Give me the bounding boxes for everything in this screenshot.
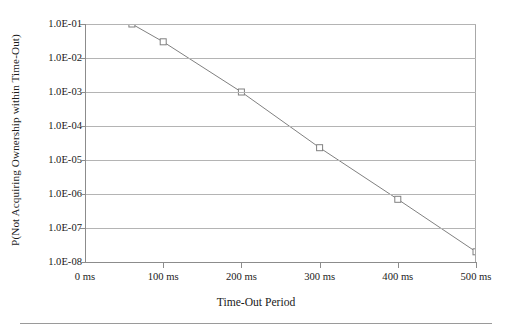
y-axis-tick-mark	[80, 194, 86, 195]
y-axis-tick-mark	[80, 262, 86, 263]
y-axis-tick-mark	[80, 58, 86, 59]
x-axis-title: Time-Out Period	[0, 296, 512, 309]
y-axis-tick-mark	[80, 24, 86, 25]
y-axis-tick-label: 1.0E-06	[26, 189, 82, 199]
x-axis-tick-mark	[241, 262, 242, 268]
x-axis-tick-label: 300 ms	[304, 271, 335, 282]
x-axis-tick-mark	[476, 262, 477, 268]
y-axis-tick-label: 1.0E-01	[26, 19, 82, 29]
x-axis-tick-label: 500 ms	[461, 271, 492, 282]
gridline	[85, 194, 476, 195]
y-axis-tick-labels: 1.0E-011.0E-021.0E-031.0E-041.0E-051.0E-…	[26, 0, 82, 335]
x-axis-line	[85, 262, 477, 263]
x-axis-tick-mark	[163, 262, 164, 268]
y-axis-title-text: P(Not Acquiring Ownership within Time-Ou…	[9, 34, 21, 246]
y-axis-tick-label: 1.0E-07	[26, 223, 82, 233]
plot-frame	[85, 24, 476, 262]
x-axis-tick-label: 200 ms	[226, 271, 257, 282]
x-axis-tick-label: 400 ms	[382, 271, 413, 282]
y-axis-tick-mark	[80, 228, 86, 229]
gridline	[85, 228, 476, 229]
x-axis-title-text: Time-Out Period	[217, 296, 295, 309]
y-axis-tick-mark	[80, 160, 86, 161]
x-axis-tick-mark	[320, 262, 321, 268]
gridline	[85, 92, 476, 93]
gridline	[85, 58, 476, 59]
gridline	[85, 126, 476, 127]
footer-rule	[20, 323, 492, 324]
y-axis-tick-label: 1.0E-08	[26, 257, 82, 267]
y-axis-tick-label: 1.0E-02	[26, 53, 82, 63]
y-axis-tick-label: 1.0E-05	[26, 155, 82, 165]
plot-area	[85, 24, 476, 262]
x-axis-tick-mark	[398, 262, 399, 268]
y-axis-tick-label: 1.0E-03	[26, 87, 82, 97]
chart-figure: P(Not Acquiring Ownership within Time-Ou…	[0, 0, 512, 335]
x-axis-tick-label: 100 ms	[148, 271, 179, 282]
gridline	[85, 160, 476, 161]
gridline	[85, 24, 476, 25]
y-axis-tick-mark	[80, 126, 86, 127]
y-axis-tick-label: 1.0E-04	[26, 121, 82, 131]
x-axis-tick-label: 0 ms	[75, 271, 95, 282]
y-axis-tick-mark	[80, 92, 86, 93]
